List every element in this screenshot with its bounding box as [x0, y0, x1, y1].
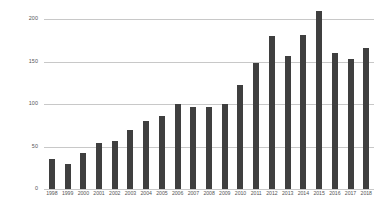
x-axis-tick-label: 1998	[44, 191, 60, 196]
x-axis-tick-label: 1999	[60, 191, 76, 196]
bar[interactable]	[285, 56, 291, 189]
bar-slot	[233, 12, 249, 189]
bar[interactable]	[316, 11, 322, 189]
bar[interactable]	[112, 141, 118, 189]
x-axis-tick-label: 2017	[343, 191, 359, 196]
y-axis-tick-label: 100	[8, 101, 38, 106]
y-axis-tick-label: 50	[8, 144, 38, 149]
bar[interactable]	[332, 53, 338, 189]
y-axis-tick-label: 150	[8, 59, 38, 64]
bar[interactable]	[363, 48, 369, 189]
bar-slot	[358, 12, 374, 189]
x-axis-tick-labels: 1998199920002001200220032004200520062007…	[44, 191, 374, 196]
x-axis-tick-label: 2004	[138, 191, 154, 196]
bar[interactable]	[175, 104, 181, 189]
x-axis-tick-label: 2013	[280, 191, 296, 196]
x-axis-tick-label: 2011	[248, 191, 264, 196]
bars-container	[44, 12, 374, 189]
bar-chart: 050100150200 199819992000200120022003200…	[0, 0, 380, 212]
x-axis-tick-label: 2002	[107, 191, 123, 196]
bar-slot	[311, 12, 327, 189]
bar[interactable]	[127, 130, 133, 189]
bar-slot	[296, 12, 312, 189]
x-axis-tick-label: 2007	[185, 191, 201, 196]
bar-slot	[91, 12, 107, 189]
bar[interactable]	[237, 85, 243, 189]
bar-slot	[280, 12, 296, 189]
bar-slot	[154, 12, 170, 189]
bar[interactable]	[159, 116, 165, 189]
bar-slot	[343, 12, 359, 189]
x-axis-tick-label: 2003	[123, 191, 139, 196]
bar[interactable]	[206, 107, 212, 189]
bar-slot	[327, 12, 343, 189]
x-axis-tick-label: 2018	[358, 191, 374, 196]
x-axis-tick-label: 2015	[311, 191, 327, 196]
bar[interactable]	[143, 121, 149, 189]
bar[interactable]	[253, 63, 259, 189]
bar-slot	[75, 12, 91, 189]
bar[interactable]	[96, 143, 102, 189]
bar-slot	[107, 12, 123, 189]
bar[interactable]	[65, 164, 71, 189]
bar-slot	[185, 12, 201, 189]
x-axis-tick-label: 2000	[75, 191, 91, 196]
x-axis-tick-label: 2016	[327, 191, 343, 196]
x-axis-tick-label: 2005	[154, 191, 170, 196]
y-axis-tick-label: 200	[8, 16, 38, 21]
bar-slot	[201, 12, 217, 189]
bar[interactable]	[222, 104, 228, 189]
bar[interactable]	[80, 153, 86, 189]
x-axis-tick-label: 2008	[201, 191, 217, 196]
bar-slot	[170, 12, 186, 189]
bar[interactable]	[49, 159, 55, 189]
bar[interactable]	[300, 35, 306, 189]
bar-slot	[138, 12, 154, 189]
bar-slot	[60, 12, 76, 189]
bar[interactable]	[190, 107, 196, 189]
x-axis-tick-label: 2012	[264, 191, 280, 196]
bar-slot	[217, 12, 233, 189]
x-axis-tick-label: 2010	[233, 191, 249, 196]
bar-slot	[264, 12, 280, 189]
bar[interactable]	[348, 59, 354, 189]
x-axis-tick-label: 2009	[217, 191, 233, 196]
x-axis-tick-label: 2001	[91, 191, 107, 196]
bar-slot	[248, 12, 264, 189]
x-axis-tick-label: 2014	[296, 191, 312, 196]
bar-slot	[44, 12, 60, 189]
bar-slot	[123, 12, 139, 189]
y-axis-tick-label: 0	[8, 186, 38, 191]
x-axis-tick-label: 2006	[170, 191, 186, 196]
bar[interactable]	[269, 36, 275, 189]
